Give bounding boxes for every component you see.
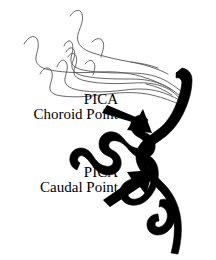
label-choroid-line2: Choroid Point (0, 107, 118, 122)
label-caudal-line2: Caudal Point (0, 180, 118, 195)
label-pica-choroid-point: PICA Choroid Point (0, 92, 118, 123)
pica-angiogram-figure: PICA Choroid Point PICA Caudal Point (0, 0, 216, 260)
label-choroid-line1: PICA (0, 92, 118, 107)
label-caudal-line1: PICA (0, 165, 118, 180)
choroidal-vessel-plexus (24, 10, 185, 104)
vessel-illustration (0, 0, 216, 260)
label-pica-caudal-point: PICA Caudal Point (0, 165, 118, 196)
